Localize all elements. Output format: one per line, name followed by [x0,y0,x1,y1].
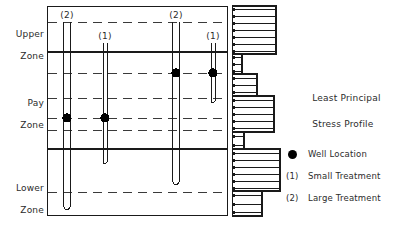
well-tag-4: (1) [202,31,224,42]
well-4-location-marker [208,68,217,77]
well-location-markers [62,68,217,122]
well-group [64,22,216,210]
legend-well-location-dot-icon [288,150,297,159]
well-3-location-marker [171,68,180,77]
frame-rect [48,7,228,216]
stress-segment-outline-6 [232,149,280,191]
legend-label-small-treatment: Small Treatment [308,171,408,182]
zone-label-lower: Lower Zone [2,172,44,226]
zone-boundary-group [47,52,228,149]
zone-label-upper: Upper Zone [2,18,44,73]
zone-label-lower-line2: Zone [20,205,44,215]
legend-label-well-location: Well Location [308,149,408,160]
layer-line-group [48,22,227,192]
zone-label-upper-line2: Zone [20,51,44,61]
well-2-casing [103,43,107,164]
zone-label-upper-line1: Upper [16,29,44,39]
stress-profile-figure: Upper Zone Pay Zone Lower Zone (2) (1) (… [0,0,411,226]
well-3-casing [173,22,180,185]
well-tag-3: (2) [165,10,187,21]
zone-label-pay-line2: Zone [20,120,44,130]
well-2-location-marker [100,113,109,122]
well-1-location-marker [62,113,71,122]
well-tag-1: (2) [56,10,78,21]
well-tag-2: (1) [94,31,116,42]
legend-key-small-treatment: (1) [286,171,306,182]
legend-label-large-treatment: Large Treatment [308,193,408,204]
stress-profile-bars [232,8,279,214]
zone-label-lower-line1: Lower [16,183,44,193]
profile-title: Least Principal Stress Profile [300,79,405,144]
zone-label-pay: Pay Zone [2,87,44,142]
profile-title-line1: Least Principal [312,93,380,103]
legend-key-large-treatment: (2) [286,193,306,204]
diagram-frame [48,7,228,216]
profile-title-line2: Stress Profile [312,119,373,129]
zone-label-pay-line1: Pay [28,98,44,108]
